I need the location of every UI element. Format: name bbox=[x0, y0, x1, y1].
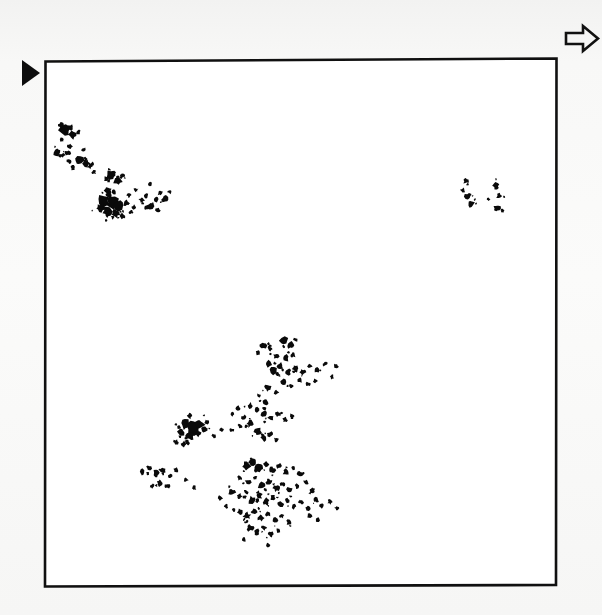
edge-markers-layer bbox=[0, 0, 602, 615]
hollow-block-arrow-marker[interactable] bbox=[566, 26, 598, 51]
solid-right-triangle-marker[interactable] bbox=[22, 60, 40, 86]
figure-stage bbox=[0, 0, 602, 615]
